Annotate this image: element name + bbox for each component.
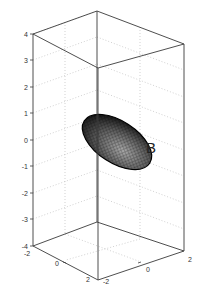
annotation-label-b: B <box>146 139 156 156</box>
z-axis-labels: 4 3 2 1 0 -1 -2 -3 -4 <box>22 31 28 250</box>
svg-text:-1: -1 <box>22 163 28 170</box>
svg-text:-2: -2 <box>22 190 28 197</box>
svg-text:-2: -2 <box>24 250 30 257</box>
svg-text:-3: -3 <box>22 216 28 223</box>
plot-3d: 4 3 2 1 0 -1 -2 -3 -4 -2 0 2 -2 0 2 B <box>0 0 204 298</box>
svg-text:3: 3 <box>24 57 28 64</box>
svg-text:-2: -2 <box>103 278 109 285</box>
svg-text:-4: -4 <box>22 243 28 250</box>
svg-text:2: 2 <box>24 84 28 91</box>
svg-text:1: 1 <box>24 110 28 117</box>
svg-text:2: 2 <box>188 256 192 263</box>
svg-text:2: 2 <box>86 276 90 283</box>
svg-text:0: 0 <box>146 266 150 273</box>
xy-axis-labels: -2 0 2 -2 0 2 <box>24 250 192 285</box>
svg-text:0: 0 <box>55 260 59 267</box>
svg-text:0: 0 <box>24 137 28 144</box>
svg-text:4: 4 <box>24 31 28 38</box>
